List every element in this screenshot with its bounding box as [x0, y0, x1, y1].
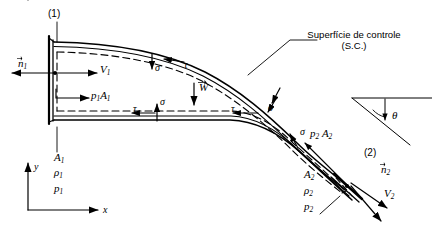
sigma-bottom-label: σ — [160, 97, 165, 107]
velocity-2-label: V2 — [384, 188, 394, 201]
control-surface-label: Superfície de controle (S.C.) — [284, 30, 424, 50]
inlet-property-0: A1 — [54, 152, 64, 165]
inlet-property-2: p1 — [54, 183, 63, 196]
normal-2-label: n2 — [381, 164, 390, 177]
tau-bottom-label-2: τ — [231, 104, 235, 114]
axis-y-label: y — [34, 162, 38, 172]
control-surface-bottom-dashed — [57, 111, 346, 191]
duct-top-inner-wall — [54, 47, 345, 191]
velocity-2-arrow — [351, 186, 381, 221]
force-1-label: p1A1 — [91, 90, 110, 103]
theta-label: θ — [392, 110, 397, 121]
outlet-plate-inner — [331, 177, 359, 202]
tau-top-label: τ — [184, 60, 188, 70]
weight-label: W — [199, 82, 208, 93]
sigma-bend-top-label: σ — [268, 103, 273, 113]
force-1-arrow — [56, 89, 89, 98]
force-2-label: p2 A2 — [310, 128, 332, 141]
sigma-curve-top-arrow — [272, 88, 280, 103]
outlet-property-2: p2 — [304, 201, 313, 214]
outlet-property-1: ρ2 — [304, 185, 313, 198]
outlet-vector-origin-dot — [345, 184, 349, 188]
sigma-top-label: σ — [155, 63, 160, 73]
control-surface-label-line1: Superfície de controle — [284, 30, 424, 40]
velocity-1-label: V1 — [100, 64, 110, 77]
inlet-property-1: ρ1 — [54, 167, 63, 180]
outlet-properties-leader — [320, 196, 340, 214]
outlet-property-0: A2 — [304, 169, 314, 182]
section-1-label: (1) — [48, 9, 60, 19]
section-2-label: (2) — [364, 148, 376, 158]
theta-diagonal-line — [352, 98, 410, 145]
duct-top-outer-wall — [54, 42, 348, 186]
control-surface-label-line2: (S.C.) — [284, 41, 424, 51]
sigma-bend-bottom-label: σ — [300, 127, 305, 137]
tau-bottom-label-1: τ — [133, 104, 137, 114]
normal-1-label: n1 — [18, 58, 27, 71]
axis-x-label: x — [103, 205, 107, 215]
figure-canvas: (1) (2) n1 V1 p1A1 W σ τ σ τ τ σ σ p2 A2… — [0, 0, 432, 238]
